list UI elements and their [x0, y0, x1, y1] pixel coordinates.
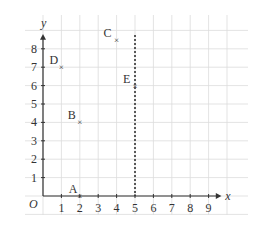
coordinate-grid-chart: xyO12345678912345678×A×B×C×D×E: [0, 0, 266, 231]
point-marker-icon: ×: [114, 35, 119, 45]
point-label-c: C: [104, 26, 112, 40]
origin-label: O: [29, 197, 38, 211]
point-marker-icon: ×: [77, 191, 82, 201]
y-axis-arrow-icon: [40, 34, 46, 40]
point-marker-icon: ×: [59, 62, 64, 72]
y-tick-label: 7: [31, 60, 37, 74]
x-tick-label: 9: [206, 201, 212, 215]
point-label-a: A: [69, 182, 78, 196]
chart-svg: xyO12345678912345678×A×B×C×D×E: [0, 0, 266, 231]
y-tick-label: 6: [31, 79, 37, 93]
y-tick-label: 3: [31, 134, 37, 148]
y-tick-label: 1: [31, 171, 37, 185]
y-axis-label: y: [40, 16, 47, 30]
x-axis-label: x: [224, 189, 231, 203]
x-tick-label: 2: [77, 201, 83, 215]
y-tick-label: 5: [31, 97, 37, 111]
point-marker-icon: ×: [132, 81, 137, 91]
x-axis-arrow-icon: [216, 193, 222, 199]
x-tick-label: 8: [187, 201, 193, 215]
y-tick-label: 8: [31, 42, 37, 56]
x-tick-label: 1: [58, 201, 64, 215]
y-tick-label: 2: [31, 152, 37, 166]
x-tick-label: 7: [169, 201, 175, 215]
point-label-e: E: [123, 72, 130, 86]
x-tick-label: 6: [150, 201, 156, 215]
y-tick-label: 4: [31, 115, 37, 129]
x-tick-label: 5: [132, 201, 138, 215]
point-marker-icon: ×: [77, 117, 82, 127]
point-label-b: B: [68, 108, 76, 122]
x-tick-label: 4: [114, 201, 120, 215]
x-tick-label: 3: [95, 201, 101, 215]
point-label-d: D: [49, 53, 58, 67]
